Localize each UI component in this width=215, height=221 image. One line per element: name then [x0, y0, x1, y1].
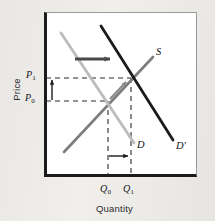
quantity-tick-q1-sub: 1 [130, 188, 134, 196]
x-axis-label: Quantity [96, 203, 133, 214]
supply-curve-label: S [156, 46, 161, 57]
y-axis-label: Price [11, 60, 22, 120]
quantity-tick-q0-sub: 0 [107, 188, 111, 196]
price-tick-p1-sub: 1 [32, 74, 36, 82]
equilibrium-move-arrow [110, 82, 126, 99]
demand-curve-shifted [101, 26, 173, 140]
figure-canvas: Price Quantity P1 P0 Q0 Q1 S D D' [0, 0, 215, 221]
price-tick-p0-sub: 0 [31, 97, 35, 105]
price-tick-p1: P1 [26, 69, 36, 80]
demand-curve-label: D [137, 139, 145, 150]
price-tick-p0: P0 [25, 92, 35, 103]
quantity-tick-q1: Q1 [123, 183, 134, 194]
demand-curve-shifted-label: D' [176, 140, 186, 151]
quantity-tick-q0: Q0 [100, 183, 111, 194]
